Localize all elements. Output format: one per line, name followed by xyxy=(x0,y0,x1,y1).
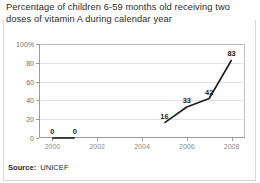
x-tick-label: 2008 xyxy=(224,143,240,150)
source-note: Source:UNICEF xyxy=(8,163,69,172)
x-tick-label: 2004 xyxy=(134,143,150,150)
data-point-label: 83 xyxy=(227,49,235,58)
data-point-label: 16 xyxy=(160,112,168,121)
x-tick-label: 2000 xyxy=(45,143,61,150)
plot-area: 020406080100% 20002002200420062008 00163… xyxy=(39,44,245,138)
figure-border-right xyxy=(255,20,256,180)
series-line xyxy=(164,60,231,123)
x-tick-label: 2002 xyxy=(89,143,105,150)
x-tick-mark xyxy=(187,138,188,141)
source-label: Source: xyxy=(8,163,36,172)
data-point-label: 33 xyxy=(183,96,191,105)
figure-border-left xyxy=(3,20,4,180)
y-tick-label: 20 xyxy=(26,116,34,123)
y-tick-mark xyxy=(36,138,39,139)
data-point-label: 42 xyxy=(205,88,213,97)
x-tick-mark xyxy=(232,138,233,141)
chart-figure: Percentage of children 6-59 months old r… xyxy=(0,0,260,183)
data-point-label: 0 xyxy=(73,127,77,136)
x-tick-mark xyxy=(142,138,143,141)
y-tick-label: 0 xyxy=(30,135,34,142)
y-tick-label: 40 xyxy=(26,97,34,104)
y-tick-label: 100% xyxy=(16,41,34,48)
y-tick-label: 80 xyxy=(26,59,34,66)
chart-title: Percentage of children 6-59 months old r… xyxy=(6,1,251,25)
figure-border-bottom xyxy=(3,180,256,181)
y-tick-label: 60 xyxy=(26,78,34,85)
source-value: UNICEF xyxy=(40,163,68,172)
data-point-label: 0 xyxy=(50,127,54,136)
x-tick-mark xyxy=(97,138,98,141)
data-series-lines xyxy=(39,44,245,138)
x-tick-label: 2006 xyxy=(179,143,195,150)
